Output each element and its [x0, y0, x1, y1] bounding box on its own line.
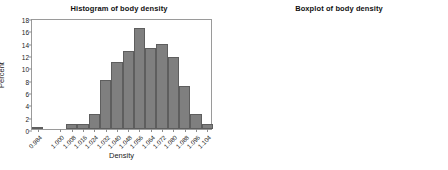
- histogram-x-tick-mark: [60, 129, 61, 132]
- histogram-x-tick-mark: [173, 129, 174, 132]
- histogram-x-axis-label: Density: [31, 151, 212, 160]
- histogram-x-axis-ticks: [32, 20, 211, 129]
- histogram-x-tick-mark: [196, 129, 197, 132]
- histogram-x-tick-mark: [207, 129, 208, 132]
- figure-root: Histogram of body density Percent 024681…: [0, 0, 448, 170]
- histogram-x-tick-mark: [83, 129, 84, 132]
- boxplot-panel: Boxplot of body density * 0.991.001.011.…: [224, 0, 448, 170]
- histogram-plot-frame: 024681012141618: [31, 19, 212, 130]
- histogram-x-tick-mark: [106, 129, 107, 132]
- histogram-x-tick-mark: [38, 129, 39, 132]
- histogram-x-tick-mark: [94, 129, 95, 132]
- histogram-x-tick-mark: [72, 129, 73, 132]
- histogram-title: Histogram of body density: [0, 4, 224, 13]
- histogram-x-tick-mark: [151, 129, 152, 132]
- histogram-x-tick-mark: [185, 129, 186, 132]
- histogram-x-tick-mark: [128, 129, 129, 132]
- histogram-x-tick-mark: [139, 129, 140, 132]
- histogram-y-tick-mark: [29, 131, 32, 132]
- boxplot-title: Boxplot of body density: [224, 4, 448, 13]
- histogram-x-tick-mark: [117, 129, 118, 132]
- histogram-panel: Histogram of body density Percent 024681…: [0, 0, 224, 170]
- histogram-y-axis-label: Percent: [0, 62, 6, 88]
- histogram-x-tick-mark: [162, 129, 163, 132]
